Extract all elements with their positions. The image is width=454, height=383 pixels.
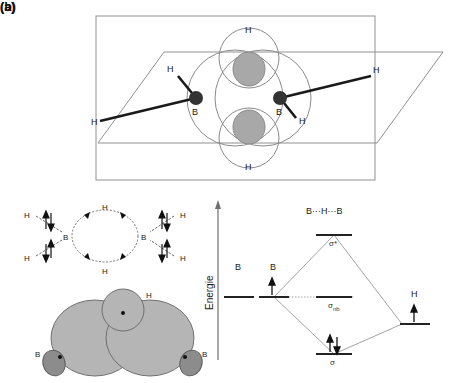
mo-fragment-b1-label: B bbox=[235, 262, 241, 272]
bond-left-lower bbox=[100, 98, 196, 121]
level-sigma-bonding-label: σ bbox=[330, 358, 335, 367]
overlap-region-top bbox=[233, 52, 265, 86]
es-bond-ll bbox=[36, 240, 62, 256]
es-electron-pair-lr bbox=[159, 240, 170, 262]
boron-right-nucleus-dot bbox=[183, 355, 187, 359]
es-bridge-arrow-tl bbox=[84, 212, 90, 219]
es-boron-left-label: B bbox=[63, 233, 68, 242]
es-bridge-arrow-tr bbox=[120, 212, 126, 219]
boron-right-label: B bbox=[276, 107, 282, 117]
es-terminal-h-upper-right-label: H bbox=[180, 211, 186, 220]
mo-fragment-h-label: H bbox=[411, 289, 418, 299]
boron-left-atom bbox=[189, 91, 203, 105]
boron-left-label: B bbox=[192, 107, 198, 117]
es-bridging-h-top-label: H bbox=[102, 203, 108, 212]
es-electron-pair-ur bbox=[159, 211, 170, 231]
ov-hydrogen-label: H bbox=[146, 291, 152, 300]
terminal-h-upper-left-label: H bbox=[167, 64, 174, 74]
es-terminal-h-upper-left-label: H bbox=[24, 211, 30, 220]
es-boron-right-label: B bbox=[141, 233, 146, 242]
hydrogen-bottom-label: H bbox=[245, 162, 252, 172]
electron-boron-level bbox=[269, 278, 275, 295]
terminal-h-lower-left-label: H bbox=[91, 117, 98, 127]
panel-a-diagram: B B H H H H H H bbox=[0, 0, 454, 190]
es-terminal-h-lower-left-label: H bbox=[24, 254, 30, 263]
electron-pair-bonding-level bbox=[327, 335, 340, 354]
es-bridge-arrow-br bbox=[120, 253, 126, 260]
electron-scheme: B B H H H H H H bbox=[10, 198, 220, 278]
bridge-ellipse bbox=[72, 210, 138, 262]
es-bridging-h-bottom-label: H bbox=[102, 267, 108, 276]
boron-left-nucleus-dot bbox=[58, 355, 62, 359]
energy-axis-arrow bbox=[215, 200, 221, 209]
boron-right-atom bbox=[273, 91, 287, 105]
es-terminal-h-lower-right-label: H bbox=[180, 254, 186, 263]
hydrogen-lobe bbox=[102, 289, 144, 331]
orbital-overlap-diagram: B B H bbox=[30, 278, 220, 383]
level-sigma-star-label: σ* bbox=[329, 239, 337, 248]
level-sigma-nb-label: σnb bbox=[328, 301, 340, 312]
hydrogen-top-label: H bbox=[245, 25, 252, 35]
hydrogen-nucleus-dot bbox=[121, 311, 125, 315]
terminal-h-lower-right-label: H bbox=[299, 116, 306, 126]
mo-system-label: B···H···B bbox=[306, 206, 343, 216]
vertical-plane bbox=[96, 16, 375, 180]
correlation-lines bbox=[274, 235, 402, 354]
terminal-h-upper-right-label: H bbox=[373, 65, 380, 75]
energy-axis-label: Energie bbox=[204, 275, 215, 310]
mo-fragment-b2-label: B bbox=[270, 262, 276, 272]
overlap-region-bottom bbox=[233, 110, 265, 144]
bond-right-upper bbox=[280, 76, 371, 98]
mo-diagram: Energie B B H B···H···B σ* σ σnb bbox=[204, 192, 454, 382]
electron-hydrogen-level bbox=[411, 305, 417, 322]
ov-boron-left-label: B bbox=[35, 350, 40, 359]
es-bridge-arrow-bl bbox=[84, 253, 90, 260]
